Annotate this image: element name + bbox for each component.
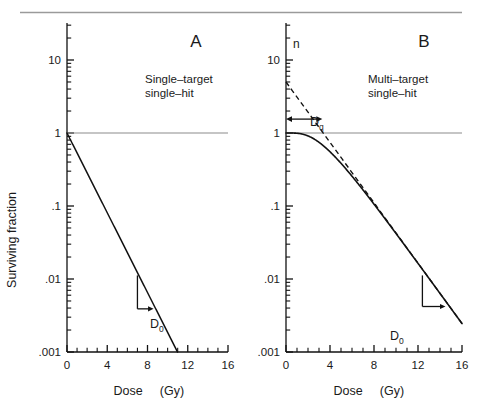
y-tick-label: .1 — [270, 200, 280, 212]
panel-b-extrapolation-number-label: n — [293, 37, 300, 51]
panel-b-d0-subscript: 0 — [399, 336, 404, 346]
x-tick-label: 0 — [283, 359, 289, 371]
y-tick-label: .001 — [258, 346, 280, 358]
panel-b-d0-label: D — [390, 329, 399, 343]
panel-a-d0-label: D — [150, 317, 159, 331]
panel-a-x-axis-unit: (Gy) — [160, 384, 184, 398]
x-tick-label: 16 — [222, 359, 235, 371]
panel-b-x-axis-title: Dose — [333, 384, 362, 398]
panel-a-caption-line1: Single–target — [145, 73, 214, 85]
figure-canvas: 101.1.01.001 0481216 A Single–target sin… — [0, 0, 480, 412]
x-tick-label: 8 — [144, 359, 150, 371]
y-tick-label: 1 — [55, 127, 61, 139]
panel-a-caption-line2: single–hit — [145, 87, 194, 99]
y-tick-label: 10 — [48, 54, 61, 66]
y-tick-label: 10 — [267, 54, 280, 66]
y-tick-label: .001 — [39, 346, 61, 358]
radiation-survival-curve-figure: 101.1.01.001 0481216 A Single–target sin… — [0, 0, 480, 412]
panel-b-x-axis-unit: (Gy) — [380, 384, 404, 398]
x-tick-label: 12 — [181, 359, 194, 371]
panel-b-caption-line1: Multi–target — [368, 73, 429, 85]
y-tick-label: .01 — [264, 273, 280, 285]
y-tick-label: .1 — [51, 200, 61, 212]
panel-a-x-axis-title: Dose — [113, 384, 142, 398]
y-tick-label: .01 — [45, 273, 61, 285]
panel-b-dq-subscript: q — [319, 122, 324, 132]
panel-a-d0-subscript: 0 — [159, 324, 164, 334]
x-tick-label: 0 — [64, 359, 70, 371]
x-tick-label: 4 — [327, 359, 334, 371]
panel-b-dq-label: D — [310, 115, 319, 129]
x-tick-label: 16 — [456, 359, 469, 371]
x-tick-label: 4 — [104, 359, 111, 371]
y-tick-label: 1 — [274, 127, 280, 139]
x-tick-label: 8 — [371, 359, 377, 371]
panel-a-letter: A — [190, 32, 202, 51]
x-tick-label: 12 — [412, 359, 425, 371]
panel-b-caption-line2: single–hit — [368, 87, 417, 99]
y-axis-title: Surviving fraction — [5, 192, 19, 288]
panel-b-letter: B — [418, 32, 429, 51]
